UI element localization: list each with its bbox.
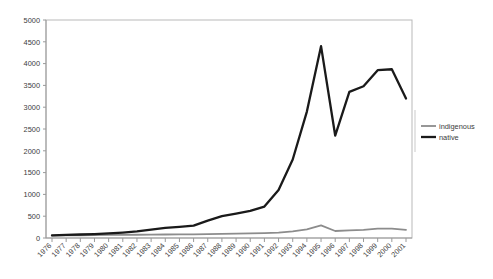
chart-container: 0500100015002000250030003500400045005000… <box>0 0 493 279</box>
plot-frame <box>46 20 412 238</box>
y-tick-label: 2500 <box>24 125 40 134</box>
x-tick-label: 1989 <box>219 241 237 259</box>
plot-area <box>46 20 412 238</box>
y-tick-label: 1000 <box>24 190 40 199</box>
x-tick-label: 1988 <box>205 241 223 259</box>
x-tick-label: 1983 <box>135 241 153 259</box>
legend-label-native: native <box>439 133 459 142</box>
x-tick-label: 1987 <box>191 241 209 259</box>
legend-label-indigenous: indigenous <box>439 122 475 131</box>
x-tick-label: 1982 <box>120 241 138 259</box>
x-tick-label: 1978 <box>64 241 82 259</box>
x-tick-label: 1992 <box>262 241 280 259</box>
x-tick-label: 1977 <box>50 241 68 259</box>
y-tick-label: 0 <box>36 234 40 243</box>
line-chart: 0500100015002000250030003500400045005000… <box>0 0 493 279</box>
x-tick-label: 1976 <box>35 241 53 259</box>
y-axis: 0500100015002000250030003500400045005000 <box>24 16 46 243</box>
y-tick-label: 3000 <box>24 103 40 112</box>
x-tick-label: 1996 <box>319 241 337 259</box>
x-tick-label: 1981 <box>106 241 124 259</box>
x-tick-label: 2000 <box>375 241 393 259</box>
x-tick-label: 1990 <box>234 241 252 259</box>
y-tick-label: 4500 <box>24 38 40 47</box>
x-tick-label: 1997 <box>333 241 351 259</box>
y-tick-label: 3500 <box>24 81 40 90</box>
y-tick-label: 1500 <box>24 168 40 177</box>
x-tick-label: 1994 <box>290 241 308 259</box>
y-tick-label: 5000 <box>24 16 40 25</box>
x-tick-label: 1991 <box>248 241 266 259</box>
x-tick-label: 1995 <box>304 241 322 259</box>
y-tick-label: 2000 <box>24 147 40 156</box>
x-tick-label: 1984 <box>149 241 167 259</box>
x-tick-label: 1979 <box>78 241 96 259</box>
x-tick-label: 1986 <box>177 241 195 259</box>
x-tick-label: 1999 <box>361 241 379 259</box>
y-tick-label: 500 <box>28 212 40 221</box>
x-tick-label: 1980 <box>92 241 110 259</box>
x-tick-label: 1993 <box>276 241 294 259</box>
chart-legend: indigenousnative <box>415 110 475 152</box>
x-tick-label: 1985 <box>163 241 181 259</box>
x-axis: 1976197719781979198019811982198319841985… <box>35 238 412 259</box>
y-tick-label: 4000 <box>24 59 40 68</box>
x-tick-label: 1998 <box>347 241 365 259</box>
x-tick-label: 2001 <box>389 241 407 259</box>
